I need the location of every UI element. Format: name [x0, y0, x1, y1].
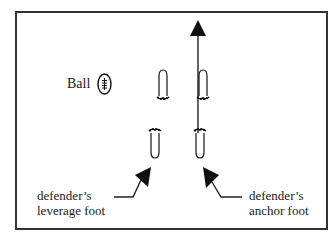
anchor-foot-label-line1: defender’s — [249, 188, 304, 203]
leverage-foot-label-line1: defender’s — [37, 188, 92, 203]
footprint-icon-upper-right — [197, 70, 209, 100]
footprint-icon-anchor — [194, 128, 206, 158]
anchor-foot-label-line2: anchor foot — [249, 203, 309, 218]
footprint-icon-upper-left — [157, 70, 169, 100]
football-icon — [98, 74, 111, 94]
ball-label: Ball — [67, 76, 90, 91]
leverage-foot-label-line2: leverage foot — [37, 203, 105, 218]
footprint-icon-leverage — [149, 128, 161, 158]
pointer-arrow-icon-leverage — [114, 167, 151, 197]
pointer-arrow-icon-anchor — [203, 167, 242, 197]
